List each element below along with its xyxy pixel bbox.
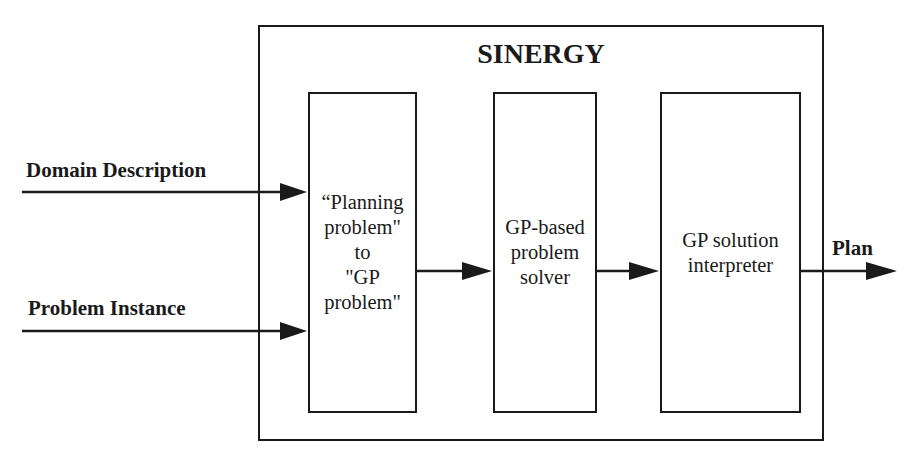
arrowhead-icon xyxy=(629,262,659,280)
arrowhead-icon xyxy=(280,183,307,201)
arrows-layer xyxy=(0,0,911,460)
arrowhead-icon xyxy=(866,262,897,280)
arrowhead-icon xyxy=(462,262,492,280)
arrowhead-icon xyxy=(280,322,307,340)
